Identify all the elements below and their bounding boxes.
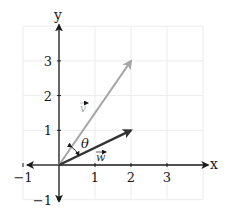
y-axis-label: y [53, 7, 62, 23]
grid [23, 26, 203, 200]
vector-v-label: v [80, 102, 87, 115]
y-tick-label: −1 [33, 193, 52, 208]
x-axis-label: x [210, 156, 218, 172]
ticks: −1123−1123 [13, 54, 171, 208]
vector-diagram: −1123−1123 x y v w θ [0, 0, 229, 211]
y-tick-label: 2 [44, 89, 52, 104]
vector-w-label: w [96, 151, 106, 164]
x-tick-label: −1 [13, 170, 32, 185]
y-tick-label: 3 [44, 54, 52, 69]
x-tick-label: 2 [127, 170, 135, 185]
angle-arc [72, 147, 79, 156]
x-tick-label: 3 [163, 170, 171, 185]
axes [27, 24, 208, 201]
angle-marker [72, 147, 79, 156]
theta-label: θ [81, 136, 89, 151]
x-tick-label: 1 [91, 170, 99, 185]
y-tick-label: 1 [44, 123, 52, 138]
